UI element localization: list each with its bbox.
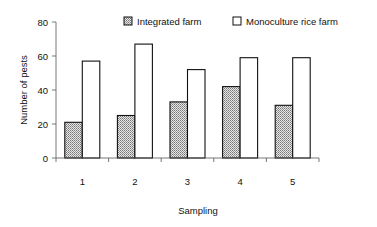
bar-integrated-farm [223, 87, 241, 158]
bar-integrated-farm [65, 122, 83, 158]
y-tick-label: 40 [37, 85, 48, 96]
legend-label: Monoculture rice farm [246, 16, 338, 27]
x-tick-label: 5 [290, 176, 295, 187]
bar-chart: Integrated farmMonoculture rice farm 020… [0, 0, 377, 227]
y-tick-label: 60 [37, 51, 48, 62]
bar-integrated-farm [170, 102, 188, 158]
y-tick-label: 0 [43, 153, 48, 164]
legend-swatch [233, 17, 241, 25]
y-tick-label: 20 [37, 119, 48, 130]
bar-monoculture-rice-farm [135, 44, 153, 158]
legend-label: Integrated farm [137, 16, 202, 27]
bar-monoculture-rice-farm [240, 58, 258, 158]
bar-monoculture-rice-farm [293, 58, 311, 158]
x-axis: 12345 [56, 158, 319, 187]
y-axis-label: Number of pests [18, 55, 29, 125]
legend: Integrated farmMonoculture rice farm [124, 16, 338, 27]
x-tick-label: 2 [132, 176, 137, 187]
bar-integrated-farm [117, 116, 134, 159]
bar-monoculture-rice-farm [82, 61, 100, 158]
y-axis: 020406080 [37, 17, 56, 164]
bars [65, 44, 310, 158]
x-tick-label: 3 [185, 176, 190, 187]
x-axis-label: Sampling [178, 205, 218, 216]
x-tick-label: 4 [237, 176, 242, 187]
bar-integrated-farm [275, 105, 293, 158]
x-tick-label: 1 [80, 176, 85, 187]
bar-monoculture-rice-farm [188, 70, 206, 158]
legend-swatch [124, 17, 132, 25]
y-tick-label: 80 [37, 17, 48, 28]
